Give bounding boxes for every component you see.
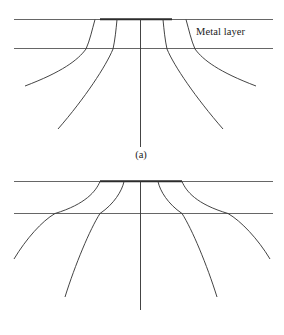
panel-a-metal-layer-label: Metal layer bbox=[196, 27, 245, 38]
panel-a: Metal layer (a) bbox=[0, 0, 284, 168]
panel-b-flux-line-outer-left bbox=[14, 182, 100, 260]
panel-b: Metal layer (b) bbox=[0, 167, 284, 335]
panel-b-flux-line-inner-left bbox=[65, 182, 124, 298]
panel-a-flux-line-inner-left bbox=[58, 20, 117, 130]
panel-a-caption: (a) bbox=[121, 150, 161, 161]
panel-a-flux-line-outer-left bbox=[25, 20, 95, 87]
panel-b-drawing bbox=[0, 167, 284, 335]
figure-root: Metal layer (a) Metal layer (b) bbox=[0, 0, 284, 335]
panel-b-flux-line-inner-right bbox=[158, 182, 217, 298]
panel-b-flux-line-outer-right bbox=[182, 182, 270, 260]
